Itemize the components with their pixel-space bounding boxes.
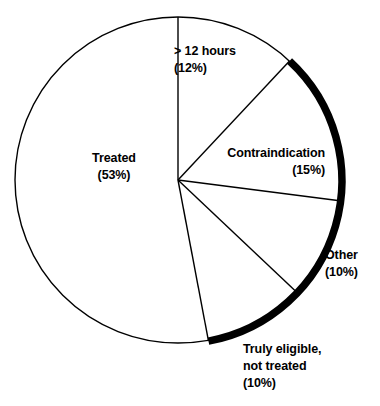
slice-label-twelve-hours-name: > 12 hours <box>174 43 236 60</box>
slice-label-other-name: Other <box>325 247 358 264</box>
slice-label-twelve-hours-value: (12%) <box>174 60 236 77</box>
slice-label-other-value: (10%) <box>325 264 358 281</box>
pie-chart: > 12 hours (12%) Contraindication (15%) … <box>0 0 380 406</box>
slice-label-treated-value: (53%) <box>62 167 166 184</box>
slice-label-truly-eligible-name-line1: Truly eligible, <box>243 341 321 358</box>
slice-label-other: Other (10%) <box>325 247 358 281</box>
slice-label-contraindication: Contraindication (15%) <box>203 145 325 179</box>
slice-label-truly-eligible-name-line2: not treated <box>243 358 321 375</box>
slice-label-twelve-hours: > 12 hours (12%) <box>174 43 236 77</box>
slice-label-contraindication-value: (15%) <box>203 162 325 179</box>
slice-label-contraindication-name: Contraindication <box>203 145 325 162</box>
slice-label-truly-eligible-value: (10%) <box>243 375 321 392</box>
slice-label-treated-name: Treated <box>62 150 166 167</box>
slice-label-truly-eligible: Truly eligible, not treated (10%) <box>243 341 321 392</box>
slice-label-treated: Treated (53%) <box>62 150 166 184</box>
